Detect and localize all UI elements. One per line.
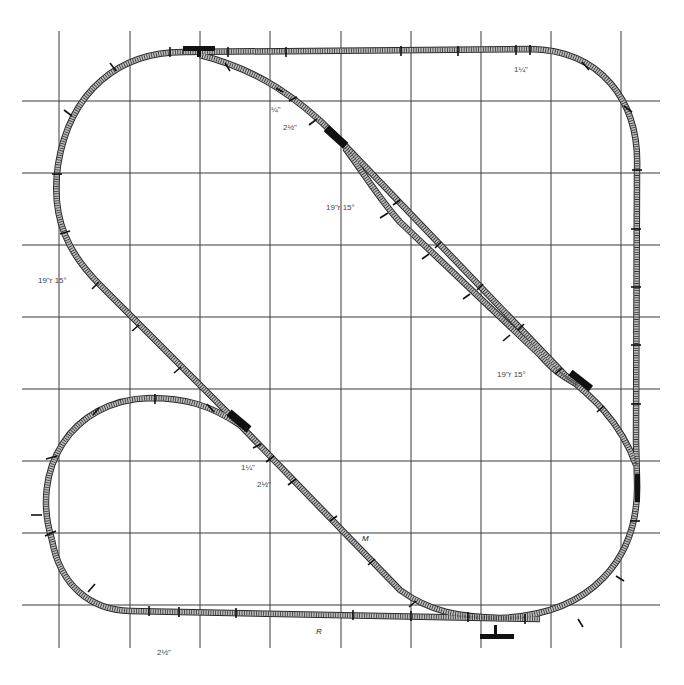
turnout-top-left-stem (197, 49, 201, 57)
labels: 1¼" ¼" 2½" 19"r 15° 19"r 15° 19"r 15° 1¼… (38, 65, 528, 657)
label-left-radius: 19"r 15° (38, 276, 67, 285)
track-plan-diagram: 1¼" ¼" 2½" 19"r 15° 19"r 15° 19"r 15° 1¼… (0, 0, 684, 685)
rail-joint (616, 576, 624, 581)
rail-joint (174, 367, 181, 373)
label-upper-1q: ¼" (271, 105, 281, 114)
figure-caption: ··· ··· ··· (200, 671, 232, 677)
track-ties (46, 398, 240, 540)
rail-joint (309, 119, 317, 125)
label-m: M (362, 534, 369, 543)
track-fill (200, 55, 636, 465)
track-upper-diagonal (200, 55, 636, 465)
label-right-radius: 19"r 15° (497, 370, 526, 379)
track-fill (46, 398, 240, 540)
turnout-upper-diagonal (324, 125, 349, 148)
label-bottom-2h: 2½" (157, 648, 171, 657)
track-ties (52, 540, 540, 619)
label-upper-radius: 19"r 15° (326, 203, 355, 212)
rail-joint (64, 110, 72, 116)
track-main-diagonal (240, 425, 500, 618)
track-fill (52, 540, 540, 619)
label-mid-2h: 2½" (257, 480, 271, 489)
track-ties (240, 425, 500, 618)
track-fill (56, 52, 240, 425)
rail-joint (578, 619, 583, 627)
grid (22, 31, 660, 648)
track-ties (200, 55, 636, 465)
rail-joint (422, 254, 429, 259)
rail-joint (132, 325, 139, 331)
label-top-right-1q: 1¼" (514, 65, 528, 74)
track-left-reverse-loop (46, 398, 240, 540)
label-r: R (316, 627, 322, 636)
rail-joint (380, 213, 388, 218)
track-fill (240, 425, 500, 618)
track-ties (56, 52, 240, 425)
track-left-curve (56, 52, 240, 425)
rail-joint (503, 335, 510, 341)
track-bottom-straight (52, 540, 540, 619)
label-upper-2h: 2½" (283, 123, 297, 132)
rail-joint (463, 294, 470, 299)
label-mid-1q: 1¼" (241, 463, 255, 472)
turnout-bottom-stem (494, 625, 497, 635)
turnout-right-side (635, 474, 640, 502)
rail-joint (88, 584, 95, 592)
